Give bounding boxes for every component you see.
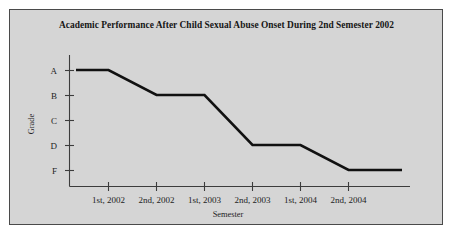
x-axis-title: Semester: [213, 210, 244, 219]
data-series-line: [76, 70, 402, 170]
y-tick-label-c: C: [51, 116, 57, 126]
x-tick-label: 1st, 2002: [92, 195, 125, 205]
y-tick-label-f: F: [52, 166, 57, 176]
y-axis-title: Grade: [27, 113, 36, 134]
chart-plot-area: A B C D F Grade 1st, 2002 2nd, 2002 1st,…: [0, 0, 453, 242]
y-tick-label-a: A: [51, 66, 58, 76]
x-tick-label: 2nd, 2002: [139, 195, 175, 205]
y-tick-label-b: B: [51, 91, 57, 101]
x-tick-label: 1st, 2004: [284, 195, 318, 205]
x-tick-label: 1st, 2003: [188, 195, 222, 205]
x-tick-label: 2nd, 2004: [331, 195, 368, 205]
x-tick-label: 2nd, 2003: [235, 195, 272, 205]
y-tick-label-d: D: [51, 141, 58, 151]
chart-figure: Academic Performance After Child Sexual …: [0, 0, 453, 242]
